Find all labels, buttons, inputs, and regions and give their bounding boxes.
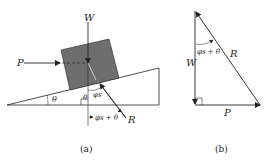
caption-a: (a) bbox=[80, 144, 92, 154]
reaction-vector bbox=[196, 12, 260, 105]
phi-theta-arc-b bbox=[196, 40, 213, 45]
label-phi-s: φs bbox=[93, 91, 102, 99]
label-r-b: R bbox=[229, 48, 238, 59]
label-phi-plus-theta: φs + θ bbox=[95, 114, 119, 122]
diagram-canvas: W P R θ θ φs φs + θ (a) W R P φs + θ (b) bbox=[0, 0, 276, 167]
right-angle-marker-b bbox=[195, 98, 202, 105]
caption-b: (b) bbox=[215, 144, 228, 154]
label-p: P bbox=[16, 57, 24, 68]
figure-a: W P R θ θ φs φs + θ (a) bbox=[7, 12, 159, 154]
label-w-b: W bbox=[186, 57, 197, 68]
label-r: R bbox=[127, 114, 136, 125]
figure-b: W R P φs + θ (b) bbox=[186, 11, 260, 154]
label-theta-incline: θ bbox=[52, 95, 57, 104]
label-p-b: P bbox=[223, 107, 231, 118]
label-phi-plus-theta-b: φs + θ bbox=[197, 48, 221, 56]
label-w: W bbox=[84, 12, 95, 23]
